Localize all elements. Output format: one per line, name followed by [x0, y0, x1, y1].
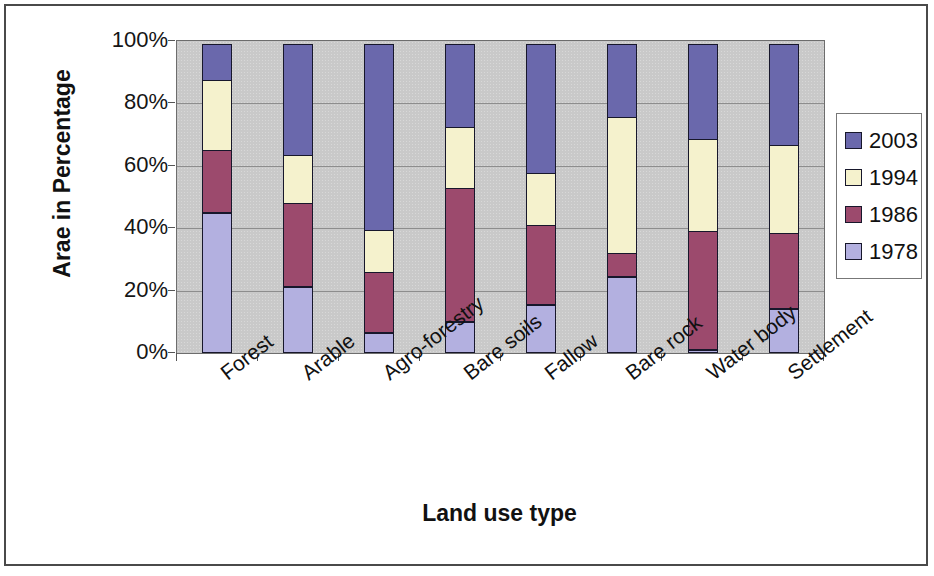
bar-segment[interactable] — [526, 225, 556, 305]
y-axis-tick-label: 100% — [78, 27, 168, 53]
stacked-bar[interactable] — [364, 41, 394, 353]
bar-segment[interactable] — [283, 44, 313, 156]
legend-item-label: 1994 — [869, 167, 918, 189]
y-axis-tick-label: 20% — [78, 277, 168, 303]
y-axis-tick-mark — [168, 290, 175, 291]
legend-item-label: 1978 — [869, 241, 918, 263]
y-axis-tick-labels: 0%20%40%60%80%100% — [72, 0, 168, 576]
bar-slot — [662, 41, 743, 353]
stacked-bar[interactable] — [688, 41, 718, 353]
bar-segment[interactable] — [607, 117, 637, 254]
x-axis-category-labels: ForestArableAgro-forestryBare soilsFallo… — [176, 352, 823, 482]
bar-segment[interactable] — [364, 44, 394, 231]
legend-item-label: 1986 — [869, 204, 918, 226]
legend-swatch-icon — [845, 206, 862, 223]
bar-segment[interactable] — [202, 150, 232, 212]
bar-slot — [581, 41, 662, 353]
y-axis-tick-mark — [168, 40, 175, 41]
bar-segment[interactable] — [769, 145, 799, 234]
bar-segment[interactable] — [688, 139, 718, 233]
bar-segment[interactable] — [445, 44, 475, 128]
legend: 2003199419861978 — [836, 113, 922, 279]
y-axis-tick-mark — [168, 102, 175, 103]
plot-area — [176, 40, 825, 354]
legend-item[interactable]: 1986 — [845, 196, 915, 233]
bar-segment[interactable] — [364, 230, 394, 274]
y-axis-tick-mark — [168, 352, 175, 353]
bar-segment[interactable] — [445, 127, 475, 189]
bar-segment[interactable] — [526, 44, 556, 175]
x-axis-title: Land use type — [176, 500, 823, 527]
legend-swatch-icon — [845, 243, 862, 260]
bar-segment[interactable] — [607, 44, 637, 119]
bar-segment[interactable] — [688, 44, 718, 141]
legend-item[interactable]: 1978 — [845, 233, 915, 270]
bar-segment[interactable] — [283, 203, 313, 287]
bar-segment[interactable] — [364, 272, 394, 333]
stacked-bar[interactable] — [202, 41, 232, 353]
bar-slot — [258, 41, 339, 353]
bar-segment[interactable] — [202, 213, 232, 353]
stacked-bar[interactable] — [526, 41, 556, 353]
bar-segment[interactable] — [202, 80, 232, 152]
bar-segment[interactable] — [202, 44, 232, 81]
y-axis-tick-mark — [168, 227, 175, 228]
y-axis-tick-label: 0% — [78, 339, 168, 365]
bar-segment[interactable] — [769, 233, 799, 309]
y-axis-tick-label: 60% — [78, 152, 168, 178]
y-axis-tick-mark — [168, 165, 175, 166]
legend-swatch-icon — [845, 132, 862, 149]
bar-segment[interactable] — [283, 287, 313, 353]
bar-segment[interactable] — [607, 253, 637, 276]
legend-item[interactable]: 2003 — [845, 122, 915, 159]
y-axis-tick-label: 40% — [78, 214, 168, 240]
y-axis-tick-label: 80% — [78, 89, 168, 115]
legend-swatch-icon — [845, 169, 862, 186]
bar-slot — [339, 41, 420, 353]
legend-item-label: 2003 — [869, 130, 918, 152]
legend-item[interactable]: 1994 — [845, 159, 915, 196]
bar-segment[interactable] — [607, 277, 637, 353]
bar-segment[interactable] — [283, 155, 313, 205]
bar-segment[interactable] — [364, 333, 394, 353]
stacked-bar[interactable] — [283, 41, 313, 353]
bar-slot — [177, 41, 258, 353]
bar-segment[interactable] — [769, 44, 799, 147]
bar-group — [177, 41, 824, 353]
chart-figure: Arae in Percentage 0%20%40%60%80%100% Fo… — [0, 0, 934, 576]
bar-slot — [501, 41, 582, 353]
stacked-bar[interactable] — [607, 41, 637, 353]
bar-segment[interactable] — [526, 173, 556, 226]
